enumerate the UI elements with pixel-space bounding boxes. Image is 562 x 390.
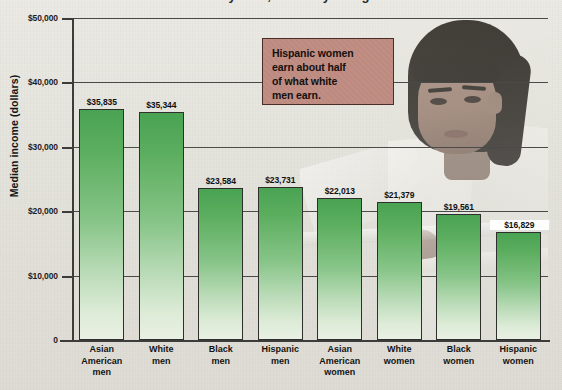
x-category-label-6: Whitewomen — [368, 344, 432, 367]
y-tick-label-20000: $20,000 — [28, 206, 58, 216]
x-category-label-2: Whitemen — [130, 344, 194, 367]
x-label-line: men — [249, 356, 313, 368]
bar-value-label-7: $19,561 — [430, 202, 487, 212]
bar-8 — [496, 232, 541, 340]
x-category-label-4: Hispanicmen — [249, 344, 313, 367]
x-label-line: Hispanic — [487, 344, 551, 356]
y-axis-label: Median income (dollars) — [8, 46, 20, 226]
x-label-line: men — [70, 367, 134, 379]
annotation-line-3: of what white — [272, 74, 393, 88]
x-category-label-7: Blackwomen — [427, 344, 491, 367]
x-label-line: women — [427, 356, 491, 368]
x-axis-labels: AsianAmericanmenWhitemenBlackmenHispanic… — [72, 344, 548, 390]
annotation-line-1: Hispanic women — [272, 46, 393, 60]
bar-value-label-8: $16,829 — [490, 220, 549, 230]
y-tick-mark-30000 — [62, 147, 72, 149]
y-tick-label-10000: $10,000 — [28, 271, 58, 281]
bar-3 — [198, 188, 243, 340]
x-category-label-3: Blackmen — [189, 344, 253, 367]
bar-7 — [436, 214, 481, 340]
x-label-line: Asian — [308, 344, 372, 356]
bar-value-label-5: $22,013 — [311, 186, 368, 196]
x-label-line: Black — [427, 344, 491, 356]
x-category-label-1: AsianAmericanmen — [70, 344, 134, 379]
x-category-label-8: Hispanicwomen — [487, 344, 551, 367]
x-label-line: American — [308, 356, 372, 368]
annotation-line-2: earn about half — [272, 60, 393, 74]
x-axis-line — [60, 340, 550, 342]
x-label-line: White — [130, 344, 194, 356]
bar-4 — [258, 187, 303, 340]
chart-container: Median income by race, ethnicity and gen… — [0, 0, 562, 390]
y-tick-mark-10000 — [62, 276, 72, 278]
x-label-line: Black — [189, 344, 253, 356]
chart-title: Median income by race, ethnicity and gen… — [120, 0, 406, 3]
x-label-line: men — [189, 356, 253, 368]
y-tick-label-50000: $50,000 — [28, 13, 58, 23]
x-label-line: women — [487, 356, 551, 368]
x-label-line: Asian — [70, 344, 134, 356]
bar-5 — [317, 198, 362, 340]
y-tick-label-30000: $30,000 — [28, 142, 58, 152]
y-tick-mark-50000 — [62, 18, 72, 20]
x-label-line: White — [368, 344, 432, 356]
bar-value-label-2: $35,344 — [133, 100, 190, 110]
annotation-callout: Hispanic women earn about half of what w… — [262, 38, 394, 105]
bar-2 — [139, 112, 184, 340]
bar-6 — [377, 202, 422, 340]
bar-value-label-3: $23,584 — [192, 176, 249, 186]
bar-value-label-4: $23,731 — [252, 175, 309, 185]
y-tick-label-0: 0 — [53, 335, 58, 345]
x-label-line: Hispanic — [249, 344, 313, 356]
y-tick-label-40000: $40,000 — [28, 77, 58, 87]
x-label-line: men — [130, 356, 194, 368]
y-tick-mark-40000 — [62, 82, 72, 84]
x-label-line: women — [308, 367, 372, 379]
chart-title-strip: Median income by race, ethnicity and gen… — [0, 0, 562, 6]
annotation-line-4: men earn. — [272, 88, 393, 102]
bar-value-label-1: $35,835 — [73, 97, 130, 107]
x-label-line: American — [70, 356, 134, 368]
bar-value-label-6: $21,379 — [371, 190, 428, 200]
x-category-label-5: AsianAmericanwomen — [308, 344, 372, 379]
x-label-line: women — [368, 356, 432, 368]
bar-1 — [79, 109, 124, 340]
y-tick-mark-20000 — [62, 211, 72, 213]
